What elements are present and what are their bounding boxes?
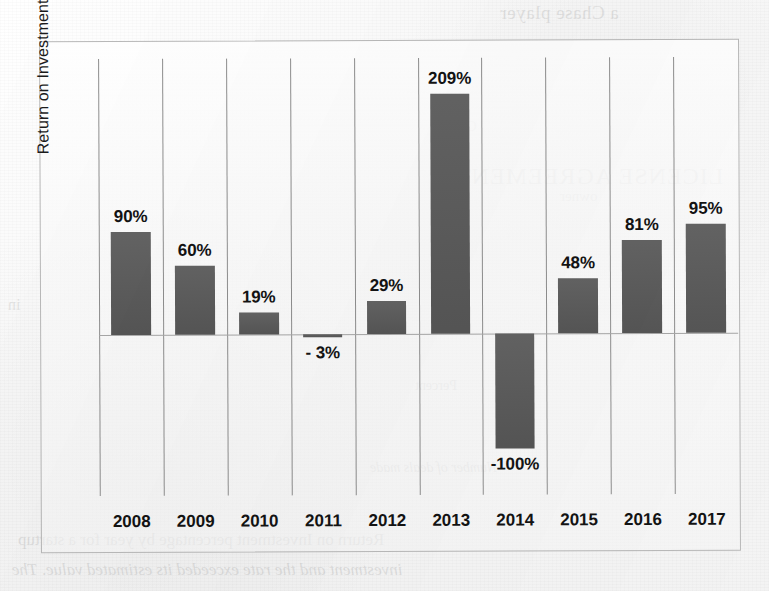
bar-data-labels: 90%60%19%- 3%29%209%-100%48%81%95%: [98, 57, 737, 59]
gridline: [609, 57, 612, 494]
gridline: [98, 59, 101, 496]
bar-2011[interactable]: [303, 334, 343, 338]
x-tick-2013: 2013: [419, 511, 483, 531]
data-label-2016: 81%: [610, 215, 674, 235]
gridline: [673, 57, 676, 494]
x-tick-2009: 2009: [164, 512, 228, 532]
x-tick-2017: 2017: [675, 510, 739, 530]
bleed-through-text-bottom-b: investment and the rate exceeded its est…: [12, 560, 402, 580]
bar-2012[interactable]: [367, 301, 407, 334]
bar-2016[interactable]: [622, 240, 662, 333]
data-label-2015: 48%: [546, 253, 610, 273]
x-tick-2012: 2012: [355, 511, 419, 531]
bleed-through-text-left: in: [8, 296, 20, 314]
bar-2010[interactable]: [239, 313, 279, 335]
bar-2017[interactable]: [686, 223, 726, 332]
gridline: [418, 58, 421, 495]
bar-series: [98, 57, 737, 59]
gridline: [226, 59, 229, 496]
scanned-chart-page: a Chase player Chase LICENSE AGREEMENT o…: [0, 0, 769, 591]
bleed-through-text-top-right: a Chase player: [500, 2, 619, 24]
data-label-2008: 90%: [99, 206, 163, 226]
x-tick-2016: 2016: [611, 510, 675, 530]
bar-2013[interactable]: [430, 93, 471, 333]
x-tick-2014: 2014: [483, 510, 547, 530]
gridline: [290, 58, 293, 495]
bar-2009[interactable]: [175, 266, 215, 335]
y-axis-title: Return on Investment: [34, 0, 53, 154]
bar-2015[interactable]: [558, 278, 598, 333]
data-label-2013: 209%: [418, 68, 482, 88]
x-tick-2008: 2008: [100, 512, 164, 532]
data-label-2009: 60%: [163, 241, 227, 261]
bar-2014[interactable]: [495, 333, 535, 448]
x-tick-2015: 2015: [547, 510, 611, 530]
gridline: [481, 58, 484, 495]
x-axis-tick-labels: 2008200920102011201220132014201520162017: [98, 57, 737, 59]
chart-plot-frame: Return on Investment 90%60%19%- 3%29%209…: [39, 39, 741, 554]
x-tick-2011: 2011: [292, 511, 356, 531]
data-label-2011: - 3%: [291, 344, 355, 364]
data-label-2014: -100%: [483, 454, 547, 474]
gridline: [545, 57, 548, 494]
plot-area: 90%60%19%- 3%29%209%-100%48%81%95% 20082…: [98, 57, 739, 496]
data-label-2017: 95%: [674, 198, 738, 218]
data-label-2010: 19%: [227, 288, 291, 308]
data-label-2012: 29%: [355, 276, 419, 296]
x-tick-2010: 2010: [228, 511, 292, 531]
bar-2008[interactable]: [111, 231, 151, 335]
gridline: [162, 59, 165, 496]
